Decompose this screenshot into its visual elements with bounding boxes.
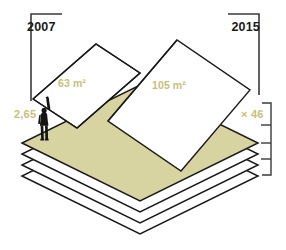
isometric-area-comparison-figure: 2007 2015 63 m² 105 m² 2,65 × 46 [0,0,286,250]
floor-count-label: × 46 [241,108,264,120]
ceiling-height-label: 2,65 [14,108,36,120]
area-value-2007: 63 m² [58,77,86,89]
area-value-2015: 105 m² [152,79,186,91]
year-label-end: 2015 [231,20,260,34]
figure-canvas [0,0,286,250]
year-label-start: 2007 [27,20,56,34]
